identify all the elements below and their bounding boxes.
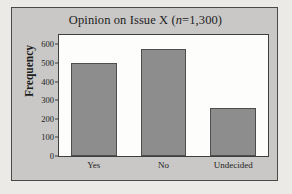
chart-title-suffix: =1,300) xyxy=(182,13,222,27)
y-tick-mark xyxy=(55,118,59,119)
y-axis-label: Frequency xyxy=(23,23,35,119)
x-tick-label: No xyxy=(158,161,169,170)
chart-panel: Opinion on Issue X (n=1,300) Frequency 0… xyxy=(11,7,278,181)
y-tick-mark xyxy=(55,156,59,157)
figure: Opinion on Issue X (n=1,300) Frequency 0… xyxy=(0,0,292,194)
x-tick-label: Yes xyxy=(87,161,100,170)
y-tick-mark xyxy=(55,81,59,82)
y-tick-mark xyxy=(55,137,59,138)
y-tick-mark xyxy=(55,62,59,63)
y-tick-mark xyxy=(55,100,59,101)
chart-title-prefix: Opinion on Issue X ( xyxy=(69,13,176,27)
plot-frame: 0100200300400500600YesNoUndecided xyxy=(58,34,269,157)
chart-title: Opinion on Issue X (n=1,300) xyxy=(12,13,279,28)
bar-yes[interactable] xyxy=(71,63,117,156)
y-tick-mark xyxy=(55,44,59,45)
plot-area: 0100200300400500600YesNoUndecided xyxy=(59,35,268,156)
bar-undecided[interactable] xyxy=(210,108,256,156)
bar-no[interactable] xyxy=(141,49,187,156)
x-tick-label: Undecided xyxy=(214,161,253,170)
